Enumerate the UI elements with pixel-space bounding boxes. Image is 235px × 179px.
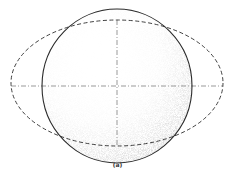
- figure-caption: (a): [0, 161, 235, 168]
- sphere-ellipse-diagram: [0, 0, 235, 179]
